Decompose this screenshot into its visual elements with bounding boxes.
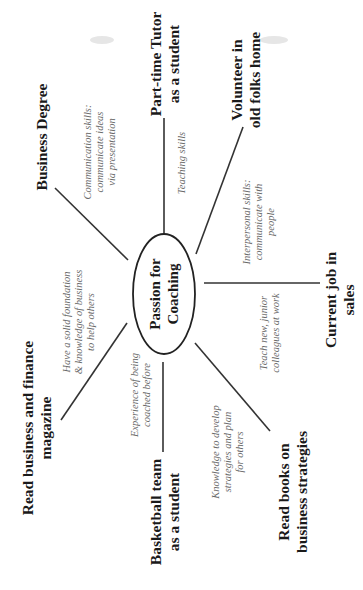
branch-note: for others bbox=[234, 431, 245, 472]
branch-basketball-team: Basketball team as a student Experience … bbox=[129, 353, 182, 565]
branch-read-magazine: Read business and finance magazine Have … bbox=[19, 270, 96, 516]
branch-label: Part-time Tutor bbox=[147, 12, 164, 117]
branch-note: via presentation bbox=[106, 118, 117, 186]
branch-label: old folks home bbox=[246, 32, 263, 129]
branch-label: Business Degree bbox=[33, 83, 50, 190]
center-label-line-2: Coaching bbox=[165, 263, 181, 324]
link-volunteer bbox=[196, 127, 243, 254]
branch-label: as a student bbox=[165, 24, 182, 103]
branch-note: Have a solid foundation bbox=[61, 271, 72, 373]
branch-current-job: Current job in sales Teach new, junior c… bbox=[258, 252, 357, 373]
watermark-smudge bbox=[260, 36, 288, 44]
branch-label: sales bbox=[340, 285, 357, 316]
branch-note: communicate with bbox=[253, 184, 264, 261]
center-label-line-1: Passion for bbox=[147, 258, 163, 330]
branch-note: communicate ideas bbox=[94, 112, 105, 193]
branch-label: magazine bbox=[37, 396, 54, 459]
branch-label: as a student bbox=[165, 472, 182, 551]
center-ellipse bbox=[133, 234, 195, 354]
branch-note: strategies and plan bbox=[222, 412, 233, 493]
branch-note: to help others bbox=[85, 293, 96, 351]
branch-business-degree: Business Degree Communication skills: co… bbox=[33, 83, 117, 199]
branch-note: Communication skills: bbox=[82, 105, 93, 200]
branch-part-time-tutor: Part-time Tutor as a student Teaching sk… bbox=[147, 12, 187, 195]
watermark-smudge bbox=[90, 36, 114, 44]
branch-label: business strategies bbox=[293, 431, 310, 553]
branch-label: Read books on bbox=[275, 443, 292, 541]
branch-note: Teach new, junior bbox=[258, 295, 269, 370]
branch-label: Current job in bbox=[322, 252, 339, 349]
branch-note: Knowledge to develop bbox=[210, 405, 221, 499]
branch-label: Read business and finance bbox=[19, 341, 36, 516]
branch-note: coached before bbox=[141, 363, 152, 427]
branch-note: people bbox=[265, 208, 276, 237]
branch-label: Basketball team bbox=[147, 459, 164, 565]
branch-note: Experience of being bbox=[129, 353, 140, 438]
branch-note: colleagues at work bbox=[270, 293, 281, 373]
branch-note: Interpersonal skills: bbox=[241, 180, 252, 266]
branch-note: & knowledge of business bbox=[73, 270, 84, 375]
branch-note: Teaching skills bbox=[176, 132, 187, 194]
mind-map-canvas: Passion for Coaching Business Degree Com… bbox=[0, 0, 363, 590]
branch-read-books: Read books on business strategies Knowle… bbox=[210, 405, 310, 553]
branch-label: Volunteer in bbox=[228, 39, 245, 121]
center-node: Passion for Coaching bbox=[133, 234, 195, 354]
